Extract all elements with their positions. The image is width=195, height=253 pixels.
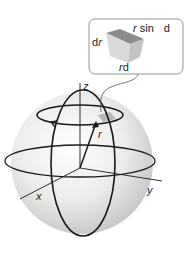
x-axis-label: x bbox=[35, 190, 42, 202]
y-axis-label: y bbox=[146, 184, 154, 196]
r-dtheta-label: rd bbox=[119, 61, 129, 73]
dr-label: dr bbox=[92, 36, 103, 48]
spherical-coordinates-diagram: z x y r dr r sind rd bbox=[0, 0, 195, 253]
z-axis-label: z bbox=[82, 80, 89, 92]
r-sin-dphi-label: r sind bbox=[133, 22, 170, 34]
